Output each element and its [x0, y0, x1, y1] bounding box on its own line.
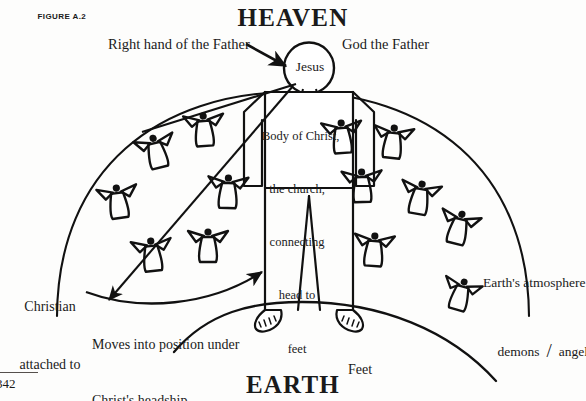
label-feet-satan-under: Feet (Satan) under Christ's feet	[306, 324, 414, 401]
figure-canvas: FIGURE A.2 HEAVEN EARTH Right hand of th…	[0, 0, 586, 401]
label-separator: /	[540, 340, 559, 362]
footnote-rule	[0, 372, 38, 373]
angel-icon	[397, 177, 442, 217]
moves-line-2: Christ's headship	[92, 392, 239, 401]
angel-icon	[438, 274, 483, 315]
body-of-christ-line-3: connecting	[262, 234, 332, 252]
body-of-christ-line-1: Body of Christ,	[262, 128, 332, 146]
feet-line-1: Feet	[306, 361, 414, 380]
label-christian-attached: Christian attached to Head but ignorant …	[4, 258, 96, 401]
arrow-to-jesus	[246, 44, 286, 66]
angel-icon	[371, 122, 414, 160]
label-moves-into-position: Moves into position under Christ's heads…	[92, 299, 239, 401]
label-demons-angels: demons/angels	[484, 323, 586, 377]
angel-icon	[435, 206, 482, 248]
angel-icon	[353, 231, 395, 267]
body-of-christ-line-4: head to	[262, 287, 332, 305]
page-number: 342	[0, 376, 16, 391]
label-right-hand-of-father: Right hand of the Father	[108, 36, 250, 53]
body-of-christ-line-2: the church,	[262, 181, 332, 199]
angel-icon	[188, 228, 228, 262]
moves-line-1: Moves into position under	[92, 336, 239, 355]
heaven-title: HEAVEN	[0, 3, 586, 33]
christian-line-1: Christian	[4, 297, 96, 316]
label-jesus: Jesus	[283, 59, 337, 75]
label-god-the-father: God the Father	[342, 36, 429, 53]
christian-line-2: attached to	[4, 355, 96, 374]
label-demons: demons	[498, 344, 540, 359]
angel-icon	[207, 174, 248, 209]
label-earths-atmosphere: Earth's atmosphere	[483, 275, 586, 291]
angel-icon	[96, 182, 140, 221]
label-angels: angels	[559, 344, 586, 359]
